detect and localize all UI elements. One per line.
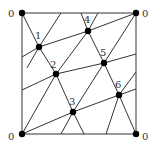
edge-line bbox=[88, 13, 136, 31]
vertex-label: 4 bbox=[84, 15, 90, 25]
corner-vertex bbox=[19, 131, 25, 137]
edge-line bbox=[73, 95, 119, 112]
edge-line bbox=[61, 112, 73, 134]
vertex-5 bbox=[101, 60, 107, 66]
vertex-label: 0 bbox=[8, 9, 14, 19]
edge-line bbox=[39, 31, 88, 47]
vertex-2 bbox=[53, 71, 59, 77]
vertex-label: 3 bbox=[69, 97, 75, 107]
vertex-label: 0 bbox=[8, 132, 14, 142]
edge-line bbox=[22, 74, 56, 134]
vertex-label: 0 bbox=[142, 9, 148, 19]
lattice-diagram bbox=[0, 0, 160, 148]
edge-line bbox=[39, 13, 61, 47]
vertex-label: 2 bbox=[50, 60, 56, 70]
edge-line bbox=[73, 63, 104, 112]
corner-vertex bbox=[133, 131, 139, 137]
vertex-label: 1 bbox=[35, 31, 41, 41]
vertex-label: 0 bbox=[142, 132, 148, 142]
vertex-1 bbox=[36, 44, 42, 50]
vertex-label: 5 bbox=[100, 48, 106, 58]
vertex-label: 6 bbox=[115, 80, 121, 90]
corner-vertex bbox=[133, 10, 139, 16]
vertex-6 bbox=[116, 92, 122, 98]
edge-line bbox=[106, 95, 119, 134]
edge-line bbox=[22, 112, 73, 134]
vertex-4 bbox=[85, 28, 91, 34]
edge-line bbox=[73, 112, 84, 134]
vertex-3 bbox=[70, 109, 76, 115]
corner-vertex bbox=[19, 10, 25, 16]
edge-line bbox=[119, 95, 136, 134]
